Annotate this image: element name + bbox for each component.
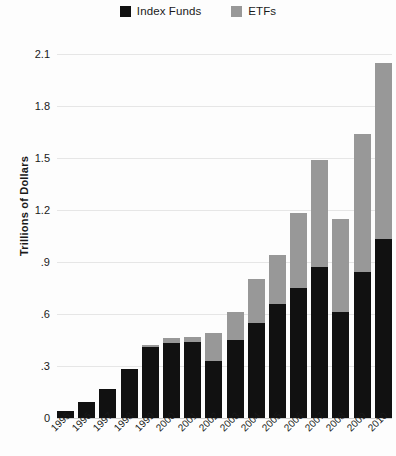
bar-column — [311, 54, 328, 418]
bar-column — [332, 54, 349, 418]
stacked-bar-chart: Index Funds ETFs Trillions of Dollars 0.… — [0, 0, 396, 456]
bar-segment-index-funds — [311, 267, 328, 418]
bar-segment-index-funds — [354, 272, 371, 418]
bar-segment-etfs — [311, 160, 328, 267]
bar-column — [290, 54, 307, 418]
plot-area: 0.3.6.91.21.51.82.1 — [57, 54, 392, 418]
bar-segment-index-funds — [184, 342, 201, 418]
legend-item-index-funds: Index Funds — [120, 6, 201, 17]
y-axis-tick-label: 1.2 — [16, 204, 50, 216]
y-axis-tick-label: 1.5 — [16, 152, 50, 164]
y-axis-tick-label: 2.1 — [16, 48, 50, 60]
bar-column — [205, 54, 222, 418]
legend-label-etfs: ETFs — [248, 6, 276, 17]
bar-column — [354, 54, 371, 418]
bar-column — [269, 54, 286, 418]
bar-segment-index-funds — [142, 347, 159, 418]
y-axis-tick-label: .9 — [16, 256, 50, 268]
bar-column — [375, 54, 392, 418]
bar-segment-etfs — [332, 219, 349, 313]
bar-segment-index-funds — [375, 239, 392, 418]
y-axis-tick-label: 0 — [16, 412, 50, 424]
bar-segment-index-funds — [269, 304, 286, 418]
y-axis-tick-label: .3 — [16, 360, 50, 372]
bar-segment-etfs — [375, 63, 392, 240]
legend-item-etfs: ETFs — [231, 6, 276, 17]
bar-segment-index-funds — [290, 288, 307, 418]
bar-column — [227, 54, 244, 418]
bar-column — [248, 54, 265, 418]
y-axis-tick-label: 1.8 — [16, 100, 50, 112]
bar-segment-etfs — [205, 333, 222, 361]
bar-segment-etfs — [354, 134, 371, 273]
bar-segment-index-funds — [248, 323, 265, 418]
bar-column — [78, 54, 95, 418]
x-axis-labels: 1995199619971998199920002001200220032004… — [57, 422, 392, 456]
y-axis-tick-label: .6 — [16, 308, 50, 320]
bar-column — [57, 54, 74, 418]
bar-column — [121, 54, 138, 418]
bar-column — [163, 54, 180, 418]
bar-segment-index-funds — [205, 361, 222, 418]
bar-column — [184, 54, 201, 418]
bar-column — [142, 54, 159, 418]
bar-column — [99, 54, 116, 418]
bar-segment-etfs — [269, 255, 286, 304]
bar-segment-index-funds — [163, 343, 180, 418]
chart-legend: Index Funds ETFs — [0, 6, 396, 17]
bar-segment-etfs — [290, 213, 307, 288]
legend-swatch-etfs — [231, 6, 242, 17]
x-axis-tick-label: 1995 — [48, 410, 72, 434]
bar-segment-index-funds — [227, 340, 244, 418]
bar-group — [57, 54, 392, 418]
legend-label-index-funds: Index Funds — [137, 6, 201, 17]
bar-segment-etfs — [248, 279, 265, 322]
x-axis-label-slot: 2010 — [375, 422, 392, 456]
bar-segment-etfs — [227, 312, 244, 340]
bar-segment-index-funds — [332, 312, 349, 418]
legend-swatch-index-funds — [120, 6, 131, 17]
